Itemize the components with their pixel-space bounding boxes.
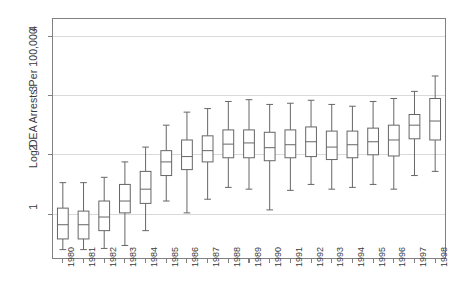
box-iqr: [120, 184, 131, 212]
box-plot-item: [78, 183, 89, 250]
box-plot-item: [368, 101, 379, 184]
box-iqr: [264, 132, 275, 160]
boxplot-chart: Log DEA Arrests Per 100,000 1234 1980198…: [0, 0, 458, 305]
box-iqr: [430, 99, 441, 140]
box-iqr: [326, 131, 337, 159]
box-plot-item: [430, 76, 441, 171]
box-iqr: [182, 140, 193, 170]
box-iqr: [409, 115, 420, 139]
box-plot-item: [388, 99, 399, 190]
plot-canvas: [0, 0, 458, 305]
box-iqr: [285, 130, 296, 158]
box-iqr: [388, 125, 399, 156]
box-plot-item: [161, 125, 172, 201]
box-iqr: [99, 201, 110, 231]
box-plot-item: [182, 112, 193, 213]
box-plot-item: [57, 183, 68, 250]
box-iqr: [161, 151, 172, 176]
y-axis-ticks: [48, 36, 53, 214]
box-iqr: [202, 136, 213, 162]
box-iqr: [140, 171, 151, 203]
box-plot-item: [264, 104, 275, 209]
box-plot-item: [140, 147, 151, 231]
box-plot-item: [326, 104, 337, 189]
box-plot-item: [244, 100, 255, 189]
box-plot-item: [223, 101, 234, 187]
box-plot-item: [99, 177, 110, 248]
box-plot-item: [120, 162, 131, 246]
box-plot-item: [409, 91, 420, 175]
box-plot-item: [202, 109, 213, 200]
box-plot-item: [306, 100, 317, 184]
x-axis-ticks: [63, 259, 435, 264]
box-iqr: [57, 208, 68, 239]
box-series: [57, 76, 440, 250]
box-iqr: [244, 130, 255, 158]
box-plot-item: [347, 106, 358, 187]
box-plot-item: [285, 103, 296, 190]
